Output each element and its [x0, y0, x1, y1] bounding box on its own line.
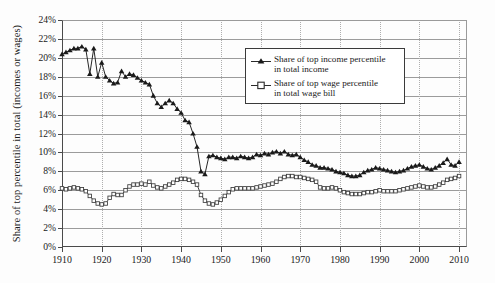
data-point-marker-triangle [79, 44, 85, 49]
data-point-marker-square [350, 192, 354, 196]
data-point-marker-square [227, 190, 231, 194]
x-axis-tick-mark [261, 247, 262, 252]
data-point-marker-triangle [456, 159, 462, 164]
filled-triangle-marker-icon [251, 55, 271, 68]
data-point-marker-square [295, 175, 299, 179]
data-point-marker-triangle [373, 165, 379, 170]
data-point-marker-square [108, 196, 112, 200]
data-point-marker-triangle [417, 162, 423, 167]
data-point-marker-square [239, 187, 243, 191]
data-point-marker-triangle [190, 131, 196, 136]
data-point-marker-square [449, 177, 453, 181]
data-point-marker-triangle [274, 149, 280, 154]
data-point-marker-square [457, 174, 461, 178]
data-point-marker-square [445, 178, 449, 182]
data-point-marker-square [394, 189, 398, 193]
data-point-marker-square [453, 176, 457, 180]
y-axis-tick-label: 14% [12, 110, 56, 120]
data-point-marker-square [104, 202, 108, 206]
data-point-marker-square [203, 199, 207, 203]
data-point-marker-square [247, 187, 251, 191]
data-point-marker-triangle [95, 74, 101, 79]
data-point-marker-square [76, 187, 80, 191]
x-axis-tick-mark [181, 247, 182, 252]
data-point-marker-square [231, 188, 235, 192]
data-point-marker-square [342, 190, 346, 194]
data-point-marker-square [326, 187, 330, 191]
data-point-marker-square [171, 181, 175, 185]
data-point-marker-triangle [282, 149, 288, 154]
data-point-marker-square [64, 188, 68, 192]
data-point-marker-triangle [238, 154, 244, 159]
x-axis-tick-mark [419, 247, 420, 252]
legend: Share of top income percentile in total … [245, 48, 405, 104]
data-point-marker-square [136, 183, 140, 187]
data-point-marker-square [338, 189, 342, 193]
legend-label-wage: Share of top wage percentile in total wa… [274, 78, 398, 99]
data-point-marker-square [160, 187, 164, 191]
data-point-marker-square [183, 177, 187, 181]
data-point-marker-square [132, 183, 136, 187]
data-point-marker-square [235, 187, 239, 191]
data-point-marker-square [283, 175, 287, 179]
data-point-marker-square [211, 203, 215, 207]
x-axis-tick-label: 2010 [432, 254, 486, 265]
data-point-marker-square [92, 199, 96, 203]
data-point-marker-square [215, 201, 219, 205]
data-point-marker-square [199, 193, 203, 197]
data-point-marker-square [410, 186, 414, 190]
data-point-marker-triangle [444, 156, 450, 161]
data-point-marker-square [207, 202, 211, 206]
data-point-marker-square [72, 186, 76, 190]
data-point-marker-square [346, 191, 350, 195]
y-axis-tick-label: 8% [12, 166, 56, 176]
data-point-marker-square [358, 192, 362, 196]
data-point-marker-square [88, 194, 92, 198]
x-axis-tick-mark [141, 247, 142, 252]
data-point-marker-square [175, 178, 179, 182]
data-point-marker-square [267, 183, 271, 187]
data-point-marker-square [310, 178, 314, 182]
data-point-marker-square [271, 182, 275, 186]
data-point-marker-square [187, 178, 191, 182]
data-point-marker-triangle [87, 71, 93, 76]
series-wage [60, 174, 461, 206]
legend-label-wage-line1: Share of top wage percentile [274, 78, 378, 88]
data-point-marker-square [306, 177, 310, 181]
data-point-marker-square [163, 185, 167, 189]
x-axis-tick-mark [221, 247, 222, 252]
x-axis-tick-mark [62, 247, 63, 252]
data-point-marker-square [259, 185, 263, 189]
data-point-marker-triangle [198, 169, 204, 174]
data-point-marker-square [390, 189, 394, 193]
data-point-marker-square [441, 181, 445, 185]
x-axis-tick-mark [300, 247, 301, 252]
data-point-marker-square [302, 176, 306, 180]
y-axis-tick-label: 2% [12, 223, 56, 233]
data-point-marker-square [354, 192, 358, 196]
data-point-marker-square [398, 189, 402, 193]
data-point-marker-triangle [182, 118, 188, 123]
x-axis-tick-mark [459, 247, 460, 252]
data-point-marker-square [167, 183, 171, 187]
data-point-marker-square [406, 187, 410, 191]
data-point-marker-square [195, 183, 199, 187]
data-point-marker-square [291, 174, 295, 178]
data-point-marker-square [418, 184, 422, 188]
data-point-marker-square [263, 184, 267, 188]
y-axis-tick-label: 18% [12, 72, 56, 82]
data-point-marker-triangle [166, 98, 172, 103]
data-point-marker-square [433, 185, 437, 189]
open-square-marker-icon [251, 79, 271, 92]
legend-label-wage-line2: in total wage bill [274, 88, 335, 98]
data-point-marker-triangle [103, 74, 109, 79]
data-point-marker-square [378, 189, 382, 193]
data-point-marker-square [96, 202, 100, 206]
data-point-marker-triangle [91, 46, 97, 51]
data-point-marker-square [430, 186, 434, 190]
data-point-marker-square [370, 190, 374, 194]
data-point-marker-square [128, 185, 132, 189]
data-point-marker-square [116, 193, 120, 197]
data-point-marker-triangle [194, 144, 200, 149]
data-point-marker-square [191, 180, 195, 184]
